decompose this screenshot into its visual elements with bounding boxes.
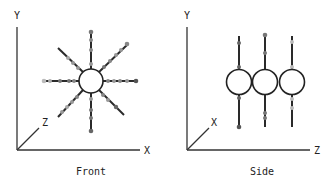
diagram-canvas: Y X Z (0, 0, 332, 184)
front-x-label: X (144, 145, 150, 156)
front-center-sphere (79, 69, 103, 93)
side-caption: Side (250, 166, 274, 177)
side-panel: Y Z X Side (184, 10, 320, 177)
side-sphere-3 (280, 70, 305, 95)
side-y-label: Y (184, 10, 190, 21)
front-z-label: Z (42, 117, 48, 128)
side-z-label: Z (314, 145, 320, 156)
front-panel: Y X Z (14, 10, 150, 177)
side-sphere-2 (253, 70, 278, 95)
side-x-label: X (211, 117, 217, 128)
front-z-axis (17, 128, 39, 150)
front-caption: Front (76, 166, 106, 177)
side-x-axis (187, 128, 209, 150)
front-y-label: Y (14, 10, 20, 21)
side-sphere-1 (227, 70, 252, 95)
